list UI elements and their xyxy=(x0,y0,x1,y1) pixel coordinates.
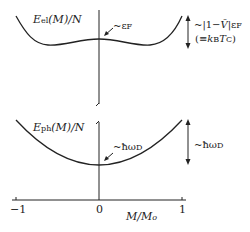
xlabel-main: M/M xyxy=(126,210,152,223)
d1b: |ε xyxy=(228,19,237,30)
label-rest: (M)/N xyxy=(48,13,81,26)
d2t: T xyxy=(219,33,226,44)
annotation-prefix: ~ε xyxy=(113,20,127,31)
d2a: (≡ xyxy=(195,33,207,44)
annotation-prefix: ~ħω xyxy=(113,141,136,152)
depth-sub: D xyxy=(217,141,223,150)
debye-annotation: ~ħωD xyxy=(113,142,142,152)
label-rest: (M)/N xyxy=(51,121,84,134)
depth-label-bottom: ~ħωD xyxy=(194,140,223,150)
x-tick-label-1: 1 xyxy=(179,204,186,215)
x-axis-label: M/Mo xyxy=(126,211,157,222)
x-tick-label-0: 0 xyxy=(96,204,103,215)
x-tick-label-minus1: −1 xyxy=(10,204,26,215)
annotation-sub: F xyxy=(127,22,133,31)
label-main: E xyxy=(33,13,41,26)
label-sub: ph xyxy=(41,124,51,133)
depth-label-top-line2: (≡kBTC) xyxy=(195,34,236,44)
fermi-energy-annotation: ~εF xyxy=(113,21,132,31)
d2b: ) xyxy=(232,33,236,44)
phonon-energy-label: Eph(M)/N xyxy=(33,122,85,133)
axis-break-lower-mark xyxy=(96,103,99,106)
label-main: E xyxy=(33,121,41,134)
depth-arrow-top-down-head xyxy=(186,43,191,49)
depth-arrow-top-up-head xyxy=(186,15,191,21)
depth-label-top-line1: ~|1−V̄|εF xyxy=(194,20,242,30)
depth-arrow-bottom-up-head xyxy=(186,119,191,125)
annotation-sub: D xyxy=(136,143,142,152)
d1v: V̄ xyxy=(221,19,228,30)
xlabel-sub: o xyxy=(152,213,157,222)
depth-prefix: ~ħω xyxy=(194,139,217,150)
d1sub: F xyxy=(236,21,242,30)
d1a: ~|1− xyxy=(194,19,221,30)
electron-energy-label: Eel(M)/N xyxy=(33,14,82,25)
depth-arrow-bottom-down-head xyxy=(186,159,191,165)
